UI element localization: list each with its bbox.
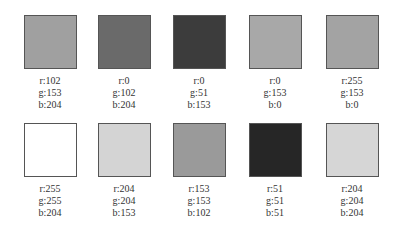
swatch-cell: r:51 g:51 b:51 bbox=[237, 123, 313, 219]
red-value: r:0 bbox=[86, 75, 162, 87]
green-value: g:204 bbox=[86, 195, 162, 207]
swatch-cell: r:0 g:51 b:153 bbox=[161, 15, 237, 111]
green-value: g:102 bbox=[86, 87, 162, 99]
rgb-labels: r:51 g:51 b:51 bbox=[237, 183, 313, 219]
color-swatch bbox=[326, 123, 379, 177]
red-value: r:255 bbox=[12, 183, 88, 195]
rgb-labels: r:0 g:102 b:204 bbox=[86, 75, 162, 111]
color-swatch bbox=[249, 123, 302, 177]
swatch-cell: r:102 g:153 b:204 bbox=[12, 15, 88, 111]
color-swatch bbox=[249, 15, 302, 69]
swatch-cell: r:204 g:204 b:153 bbox=[86, 123, 162, 219]
color-swatch bbox=[24, 15, 77, 69]
blue-value: b:204 bbox=[12, 207, 88, 219]
red-value: r:153 bbox=[161, 183, 237, 195]
swatch-cell: r:255 g:255 b:204 bbox=[12, 123, 88, 219]
swatch-cell: r:255 g:153 b:0 bbox=[314, 15, 390, 111]
color-swatch bbox=[173, 123, 226, 177]
swatch-cell: r:0 g:153 b:0 bbox=[237, 15, 313, 111]
red-value: r:51 bbox=[237, 183, 313, 195]
swatch-cell: r:204 g:204 b:204 bbox=[314, 123, 390, 219]
blue-value: b:204 bbox=[86, 99, 162, 111]
green-value: g:153 bbox=[161, 195, 237, 207]
swatch-cell: r:153 g:153 b:102 bbox=[161, 123, 237, 219]
rgb-labels: r:204 g:204 b:204 bbox=[314, 183, 390, 219]
color-swatch bbox=[24, 123, 77, 177]
color-swatch-grid: r:102 g:153 b:204 r:0 g:102 b:204 r:0 g:… bbox=[0, 0, 397, 232]
rgb-labels: r:0 g:153 b:0 bbox=[237, 75, 313, 111]
blue-value: b:0 bbox=[314, 99, 390, 111]
green-value: g:51 bbox=[161, 87, 237, 99]
red-value: r:0 bbox=[237, 75, 313, 87]
rgb-labels: r:153 g:153 b:102 bbox=[161, 183, 237, 219]
rgb-labels: r:102 g:153 b:204 bbox=[12, 75, 88, 111]
blue-value: b:153 bbox=[86, 207, 162, 219]
rgb-labels: r:255 g:255 b:204 bbox=[12, 183, 88, 219]
green-value: g:204 bbox=[314, 195, 390, 207]
green-value: g:255 bbox=[12, 195, 88, 207]
red-value: r:102 bbox=[12, 75, 88, 87]
red-value: r:0 bbox=[161, 75, 237, 87]
color-swatch bbox=[98, 15, 151, 69]
color-swatch bbox=[173, 15, 226, 69]
rgb-labels: r:255 g:153 b:0 bbox=[314, 75, 390, 111]
color-swatch bbox=[98, 123, 151, 177]
blue-value: b:51 bbox=[237, 207, 313, 219]
green-value: g:153 bbox=[12, 87, 88, 99]
blue-value: b:153 bbox=[161, 99, 237, 111]
green-value: g:51 bbox=[237, 195, 313, 207]
blue-value: b:204 bbox=[314, 207, 390, 219]
rgb-labels: r:204 g:204 b:153 bbox=[86, 183, 162, 219]
red-value: r:204 bbox=[86, 183, 162, 195]
red-value: r:255 bbox=[314, 75, 390, 87]
blue-value: b:204 bbox=[12, 99, 88, 111]
blue-value: b:0 bbox=[237, 99, 313, 111]
color-swatch bbox=[326, 15, 379, 69]
swatch-cell: r:0 g:102 b:204 bbox=[86, 15, 162, 111]
green-value: g:153 bbox=[237, 87, 313, 99]
rgb-labels: r:0 g:51 b:153 bbox=[161, 75, 237, 111]
red-value: r:204 bbox=[314, 183, 390, 195]
blue-value: b:102 bbox=[161, 207, 237, 219]
green-value: g:153 bbox=[314, 87, 390, 99]
